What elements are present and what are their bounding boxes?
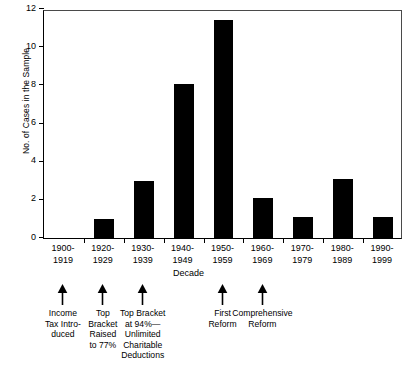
x-axis-tick-label: 1940- 1949 xyxy=(163,243,203,266)
annotation-label: Comprehensive Reform xyxy=(214,308,310,329)
bar xyxy=(253,198,273,238)
annotation-label: Top Bracket at 94%— Unlimited Charitable… xyxy=(106,308,180,361)
y-axis-tick-label: 6 xyxy=(31,117,36,127)
y-axis-tick: 2 xyxy=(39,199,44,200)
y-axis-tick: 0 xyxy=(39,237,44,238)
annotation: Top Bracket at 94%— Unlimited Charitable… xyxy=(106,284,180,361)
bar xyxy=(94,219,114,238)
y-axis-tick-label: 0 xyxy=(31,232,36,242)
y-axis-tick-label: 8 xyxy=(31,79,36,89)
up-arrow-icon xyxy=(137,284,148,306)
y-axis-tick-label: 4 xyxy=(31,155,36,165)
bar-chart-figure: No. of Cases in the Sample 024681012 190… xyxy=(0,0,415,368)
y-axis-tick: 6 xyxy=(39,123,44,124)
x-axis-tick-label: 1920- 1929 xyxy=(83,243,123,266)
bar xyxy=(134,181,154,238)
x-axis-tick-label: 1950- 1959 xyxy=(203,243,243,266)
x-axis-tick-label: 1990- 1999 xyxy=(362,243,402,266)
bar xyxy=(373,217,393,238)
up-arrow-icon xyxy=(257,284,268,306)
y-axis-tick-label: 10 xyxy=(26,41,36,51)
plot-area: 024681012 xyxy=(43,10,402,239)
annotation-arrow xyxy=(214,284,310,306)
y-axis-tick: 12 xyxy=(39,8,44,9)
y-axis-tick: 10 xyxy=(39,46,44,47)
annotation-arrow xyxy=(106,284,180,306)
x-axis-title: Decade xyxy=(43,268,402,278)
x-axis-tick-label: 1960- 1969 xyxy=(242,243,282,266)
annotation-group: Income Tax Intro- ducedTop Bracket Raise… xyxy=(0,284,415,368)
x-axis-tick-label: 1980- 1989 xyxy=(322,243,362,266)
bar xyxy=(293,217,313,238)
annotation: Comprehensive Reform xyxy=(214,284,310,329)
y-axis-tick-label: 2 xyxy=(31,193,36,203)
y-axis-tick: 8 xyxy=(39,84,44,85)
x-axis-tick-label: 1930- 1939 xyxy=(123,243,163,266)
bar xyxy=(333,179,353,238)
bar xyxy=(174,84,194,238)
x-axis-tick-label: 1970- 1979 xyxy=(282,243,322,266)
x-axis-title-text: Decade xyxy=(173,268,204,278)
up-arrow-icon xyxy=(57,284,68,306)
x-axis-tick-label: 1900- 1919 xyxy=(43,243,83,266)
y-axis-tick: 4 xyxy=(39,161,44,162)
bar xyxy=(214,20,234,238)
y-axis-tick-label: 12 xyxy=(26,3,36,13)
